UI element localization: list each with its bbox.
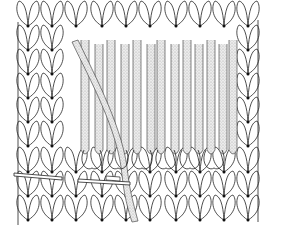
stitch-diagram: [0, 0, 281, 243]
knitting-illustration: [0, 0, 281, 243]
yarn-strands: [72, 40, 237, 222]
